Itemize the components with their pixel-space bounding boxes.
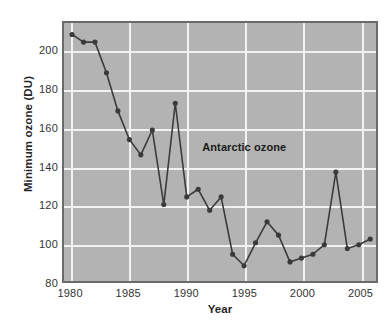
x-tick-label: 1990 <box>156 288 216 299</box>
data-point-marker <box>264 219 269 224</box>
y-axis-title: Minimum ozone (DU) <box>22 44 34 224</box>
plot-area: Antarctic ozone <box>62 21 378 283</box>
data-point-marker <box>219 194 224 199</box>
data-point-marker <box>104 70 109 75</box>
data-point-marker <box>207 208 212 213</box>
data-point-marker <box>184 194 189 199</box>
y-tick-label: 100 <box>4 239 58 250</box>
data-point-marker <box>173 101 178 106</box>
data-point-marker <box>138 152 143 157</box>
data-point-marker <box>322 242 327 247</box>
x-tick-label: 1980 <box>40 288 100 299</box>
data-point-marker <box>310 252 315 257</box>
data-point-marker <box>299 256 304 261</box>
x-tick-label: 1985 <box>98 288 158 299</box>
ozone-chart-figure: Antarctic ozone 80100120140160180200 198… <box>0 0 390 320</box>
data-point-marker <box>115 108 120 113</box>
x-tick-label: 2005 <box>331 288 390 299</box>
data-point-marker <box>69 32 74 37</box>
data-point-marker <box>81 40 86 45</box>
x-axis-tick-labels: 198019851990199520002005 <box>62 288 378 302</box>
data-point-marker <box>127 137 132 142</box>
data-point-marker <box>287 259 292 264</box>
data-point-marker <box>150 127 155 132</box>
data-point-marker <box>92 40 97 45</box>
data-point-marker <box>368 236 373 241</box>
data-point-marker <box>242 263 247 268</box>
series-annotation-label: Antarctic ozone <box>202 141 286 153</box>
data-point-marker <box>276 233 281 238</box>
x-tick-label: 2000 <box>272 288 332 299</box>
data-point-marker <box>161 202 166 207</box>
data-point-marker <box>230 252 235 257</box>
data-point-marker <box>196 187 201 192</box>
data-point-marker <box>345 246 350 251</box>
data-point-marker <box>333 170 338 175</box>
data-point-marker <box>253 240 258 245</box>
x-axis-title: Year <box>62 303 378 315</box>
x-tick-label: 1995 <box>214 288 274 299</box>
data-point-marker <box>356 242 361 247</box>
